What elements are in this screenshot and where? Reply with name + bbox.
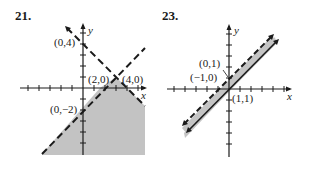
graph-23-plot [0,0,311,171]
point-label: (−1,0) [190,71,217,83]
shaded-band [182,36,278,134]
x-axis-label: x [287,90,292,102]
point-label: (0,1) [199,57,220,69]
boundary-solid [188,41,277,131]
point-label: (1,1) [232,92,253,104]
y-axis-label: y [234,24,239,36]
